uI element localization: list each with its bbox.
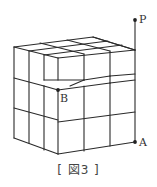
label-a: A xyxy=(139,137,147,148)
label-b: B xyxy=(60,93,68,104)
figure-caption: [ 図3 ] xyxy=(0,160,157,177)
point-p xyxy=(133,18,137,22)
label-p: P xyxy=(139,14,146,25)
point-a xyxy=(133,140,137,144)
cube-diagram xyxy=(0,0,157,187)
